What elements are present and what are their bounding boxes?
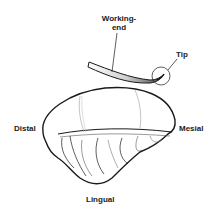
mesial-label: Mesial bbox=[179, 124, 203, 133]
tip-label: Tip bbox=[176, 50, 188, 59]
lingual-label: Lingual bbox=[86, 195, 114, 204]
dental-diagram: Working- end Tip Distal Mesial Lingual bbox=[0, 0, 213, 214]
working-end-label-line1: Working- bbox=[101, 14, 137, 23]
working-end-label: Working- end bbox=[101, 14, 137, 32]
diagram-illustration bbox=[0, 0, 213, 214]
working-end-label-line2: end bbox=[101, 23, 137, 32]
working-end-leader-line bbox=[112, 33, 117, 72]
distal-label: Distal bbox=[14, 124, 36, 133]
tooth-crown bbox=[43, 87, 175, 184]
tip-leader-line bbox=[168, 59, 177, 70]
